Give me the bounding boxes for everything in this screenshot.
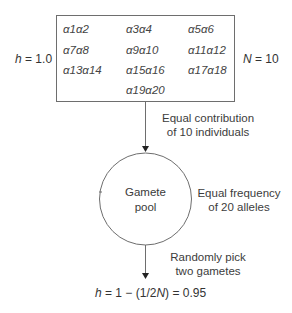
genotype-r1c3: α5α6 (188, 23, 214, 35)
equal-frequency-line2: of 20 alleles (196, 200, 282, 214)
genotype-r1c1: α1α2 (63, 23, 89, 35)
equal-frequency-note: Equal frequency of 20 alleles (196, 186, 282, 214)
result-h-variable: h (95, 286, 102, 300)
n-variable: N (243, 52, 252, 66)
h-value: = 1.0 (25, 52, 52, 66)
result-formula: h = 1 − (1/2N) = 0.95 (95, 286, 206, 300)
gamete-pool-line2: pool (115, 200, 176, 215)
genotype-r1c2: α3α4 (126, 23, 152, 35)
equal-contribution-line1: Equal contribution (160, 111, 256, 125)
population-box: α1α2 α3α4 α5α6 α7α8 α9α10 α11α12 α13α14 … (56, 15, 235, 102)
genotype-r2c1: α7α8 (63, 44, 89, 56)
h-variable: h (15, 52, 22, 66)
initial-heterozygosity-label: h = 1.0 (15, 52, 52, 66)
gamete-pool-label: Gamete pool (115, 185, 176, 215)
genotype-r3c1: α13α14 (63, 64, 102, 76)
genotype-r3c2: α15α16 (126, 64, 165, 76)
population-size-label: N = 10 (243, 52, 279, 66)
genotype-r2c2: α9α10 (126, 44, 158, 56)
equal-contribution-note: Equal contribution of 10 individuals (160, 111, 256, 139)
arrowhead-to-pool (142, 146, 149, 152)
random-pick-line2: two gametes (166, 264, 250, 278)
arrowhead-to-result (142, 273, 149, 279)
gamete-pool-line1: Gamete (115, 185, 176, 200)
random-pick-note: Randomly pick two gametes (166, 250, 250, 278)
genotype-r2c3: α11α12 (188, 44, 226, 56)
result-n-variable: N (156, 286, 165, 300)
n-value: = 10 (255, 52, 279, 66)
random-pick-line1: Randomly pick (166, 250, 250, 264)
genotype-r4c2: α19α20 (126, 84, 165, 96)
equal-frequency-line1: Equal frequency (196, 186, 282, 200)
equal-contribution-line2: of 10 individuals (160, 125, 256, 139)
result-expr-b: ) = 0.95 (165, 286, 206, 300)
result-expr-a: = 1 − (1/2 (102, 286, 157, 300)
genotype-r3c3: α17α18 (188, 64, 227, 76)
